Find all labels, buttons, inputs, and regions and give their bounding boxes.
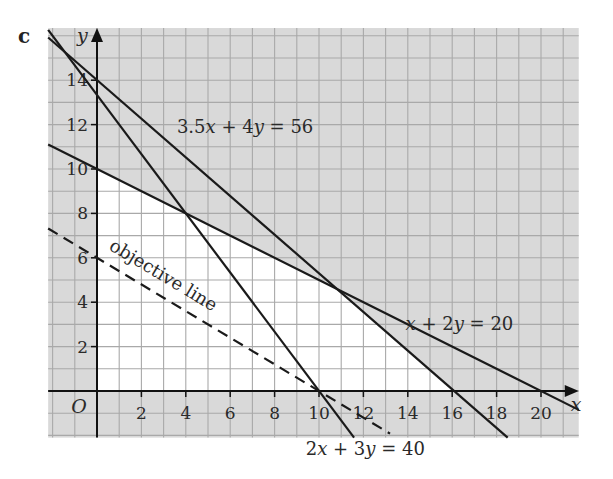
x-tick-label: 10 [308,403,330,423]
equation-label: 2x + 3y = 40 [306,438,425,459]
chart-svg: 24681012141618202468101214Oxy 3.5x + 4y … [0,0,613,479]
x-tick-label: 16 [441,403,463,423]
equation-label: 3.5x + 4y = 56 [177,116,313,137]
y-tick-label: 4 [77,292,88,312]
x-tick-label: 14 [397,403,419,423]
linear-programming-graph: c 24681012141618202468101214Oxy 3.5x + 4… [0,0,613,479]
equation-label: x + 2y = 20 [406,313,514,334]
origin-label: O [71,395,87,417]
x-tick-label: 8 [269,403,280,423]
y-tick-label: 2 [77,337,88,357]
x-tick-label: 2 [136,403,147,423]
x-axis-label: x [571,393,582,415]
x-tick-label: 12 [353,403,375,423]
part-label: c [18,24,30,48]
y-axis-label: y [76,24,88,46]
y-tick-label: 8 [77,203,88,223]
y-tick-label: 12 [66,115,88,135]
x-tick-label: 20 [530,403,552,423]
x-tick-label: 6 [225,403,236,423]
x-tick-label: 4 [180,403,191,423]
